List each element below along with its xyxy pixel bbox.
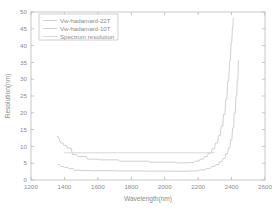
legend-label-0: Vw-hadamard-22T [60, 17, 111, 24]
y-tick-label: 30 [20, 75, 27, 82]
y-tick-label: 40 [20, 42, 27, 49]
y-tick-label: 0 [24, 176, 28, 183]
x-tick-label: 2200 [191, 183, 205, 190]
y-tick-label: 20 [20, 109, 27, 116]
x-tick-label: 2600 [258, 183, 272, 190]
series-group [57, 18, 239, 171]
y-tick-label: 25 [20, 92, 27, 99]
series-line-1 [58, 60, 239, 171]
legend-label-1: Vw-hadamard-10T [60, 25, 111, 32]
legend-label-2: Spectrum resolution [60, 33, 114, 40]
resolution-vs-wavelength-chart: 12001400160018002000220024002600 0510152… [0, 0, 279, 210]
y-tick-label: 35 [20, 59, 27, 66]
y-tick-label: 15 [20, 126, 27, 133]
x-tick-label: 1400 [58, 183, 72, 190]
x-tick-label: 1800 [124, 183, 138, 190]
y-tick-label: 5 [24, 159, 28, 166]
y-axis-tick-labels: 05101520253035404550 [20, 8, 27, 183]
y-axis-title: Resolution(nm) [4, 74, 12, 119]
y-tick-label: 45 [20, 25, 27, 32]
legend: Vw-hadamard-22TVw-hadamard-10TSpectrum r… [39, 14, 118, 40]
x-tick-label: 1200 [24, 183, 38, 190]
x-tick-label: 1600 [91, 183, 105, 190]
x-axis-title: Wavelength(nm) [124, 195, 172, 203]
x-tick-label: 2000 [158, 183, 172, 190]
y-tick-label: 10 [20, 143, 27, 150]
x-axis-tick-labels: 12001400160018002000220024002600 [24, 183, 272, 190]
y-tick-label: 50 [20, 8, 27, 15]
x-tick-label: 2400 [225, 183, 239, 190]
figure-container: 12001400160018002000220024002600 0510152… [0, 0, 279, 210]
